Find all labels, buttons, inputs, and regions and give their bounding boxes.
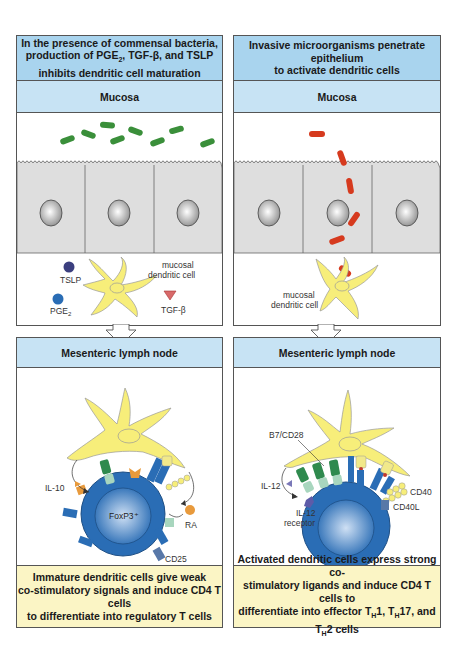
caption-line: differentiate into effector TH1, TH17, a… — [234, 605, 440, 639]
foxp3-label: FoxP3⁺ — [109, 511, 139, 521]
caption-line: to differentiate into regulatory T cells — [17, 610, 222, 623]
receptor-icon — [99, 459, 111, 475]
il12-arrow-icon — [282, 468, 296, 496]
right-panel-title: Invasive microorganisms penetrate epithe… — [234, 36, 440, 81]
cd40-chain-icon — [166, 475, 190, 490]
mucosal-dendritic-cell-icon — [83, 257, 157, 317]
dc-label-line1: mucosal — [162, 260, 194, 270]
il12-label: IL-12 — [261, 481, 281, 491]
nucleus-icon — [396, 200, 418, 226]
caption-line: co-stimulatory signals and induce CD4 T … — [17, 584, 222, 610]
cd40-label: CD40 — [410, 487, 432, 497]
nucleus-icon — [258, 200, 280, 226]
dc-label-line2: dendritic cell — [148, 270, 195, 280]
tslp-molecule-icon — [64, 262, 75, 273]
epithelial-cells — [17, 161, 222, 253]
caption-line: Activated dendritic cells express strong… — [234, 553, 440, 579]
il10-label: IL-10 — [45, 483, 65, 493]
right-lymph-node-label: Mesenteric lymph node — [234, 338, 440, 368]
left-panel-title: In the presence of commensal bacteria, p… — [17, 36, 222, 81]
right-top-panel: Invasive microorganisms penetrate epithe… — [233, 35, 441, 326]
right-caption: Activated dendritic cells express strong… — [233, 565, 441, 628]
il12-molecule-icon — [286, 480, 292, 487]
ra-molecule-icon — [185, 505, 195, 515]
cd40l-icon — [381, 500, 389, 510]
title-line: production of PGE2, TGF-β, and TSLP — [21, 49, 218, 67]
left-caption: Immature dendritic cells give weak co-st… — [16, 565, 223, 628]
il12-receptor-label-line2: receptor — [284, 518, 315, 528]
left-lymph-diagram: FoxP3⁺ IL-10 RA CD25 — [17, 368, 222, 565]
left-top-panel: In the presence of commensal bacteria, p… — [16, 35, 223, 326]
title-line: to activate dendritic cells — [234, 64, 440, 77]
caption-line: stimulatory ligands and induce CD4 T cel… — [234, 579, 440, 605]
left-mucosa-diagram: TSLP PGE2 TGF-β mucosal dendritic cell — [17, 113, 222, 325]
left-bottom-panel: Mesenteric lymph node FoxP3⁺ — [16, 337, 223, 566]
left-lymph-node-label: Mesenteric lymph node — [17, 338, 222, 368]
nucleus-icon — [327, 200, 349, 226]
title-line: In the presence of commensal bacteria, — [21, 37, 218, 50]
dc-label-line2: dendritic cell — [271, 300, 318, 310]
commensal-bacteria-icon — [59, 121, 215, 148]
right-lymph-diagram: B7/CD28 IL-12 IL-12 receptor CD40 CD40L — [234, 368, 440, 565]
tgf-beta-label: TGF-β — [161, 305, 186, 315]
mucosal-dendritic-cell-icon — [316, 257, 378, 319]
ra-label: RA — [185, 520, 197, 530]
title-line: Invasive microorganisms penetrate epithe… — [234, 39, 440, 64]
nucleus-icon — [108, 200, 130, 226]
left-mucosa-label: Mucosa — [17, 81, 222, 113]
il12-receptor-label-line1: IL-12 — [296, 508, 316, 518]
pge2-label: PGE2 — [50, 306, 72, 317]
caption-line: Immature dendritic cells give weak — [17, 571, 222, 584]
tslp-label: TSLP — [60, 275, 82, 285]
pge2-molecule-icon — [53, 294, 64, 305]
il10-arrow-icon — [72, 460, 89, 492]
dc-label-line1: mucosal — [283, 290, 315, 300]
nucleus-icon — [177, 200, 199, 226]
cd25-label: CD25 — [165, 554, 187, 564]
cd40l-label: CD40L — [393, 502, 420, 512]
nucleus-icon — [40, 200, 62, 226]
title-line: inhibits dendritic cell maturation — [21, 67, 218, 80]
tgf-beta-molecule-icon — [164, 291, 176, 300]
right-bottom-panel: Mesenteric lymph node — [233, 337, 441, 566]
right-mucosa-diagram: mucosal dendritic cell — [234, 113, 440, 325]
right-mucosa-label: Mucosa — [234, 81, 440, 113]
b7cd28-label: B7/CD28 — [269, 430, 304, 440]
il10-receptor-icon — [129, 468, 141, 478]
